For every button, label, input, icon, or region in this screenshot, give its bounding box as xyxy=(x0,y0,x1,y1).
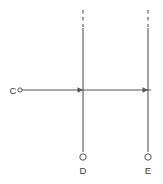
arrowhead-at-e-icon xyxy=(143,87,149,92)
point-e-label: E xyxy=(145,165,151,176)
point-d-label: D xyxy=(80,165,87,176)
point-c-label: C xyxy=(10,85,17,96)
arrowhead-at-d-icon xyxy=(78,87,84,92)
point-e-marker-icon xyxy=(145,154,151,160)
geometry-diagram: C D E xyxy=(0,0,163,184)
diagram-canvas: C D E xyxy=(0,0,163,184)
point-c-marker-icon xyxy=(18,88,22,92)
point-d-marker-icon xyxy=(80,154,86,160)
